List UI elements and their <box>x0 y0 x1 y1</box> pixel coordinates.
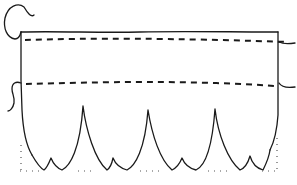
panel-left-edge <box>21 32 32 155</box>
top-left-tie <box>4 5 34 39</box>
panel-right-edge <box>270 32 278 150</box>
upper-stitch-line <box>25 39 288 42</box>
panel-diagram <box>0 0 297 185</box>
panel-top-edge <box>21 32 278 33</box>
lower-stitch-line <box>26 82 275 86</box>
lower-right-tie <box>279 83 295 88</box>
lower-left-tie <box>8 82 21 111</box>
scalloped-hem <box>32 106 270 170</box>
